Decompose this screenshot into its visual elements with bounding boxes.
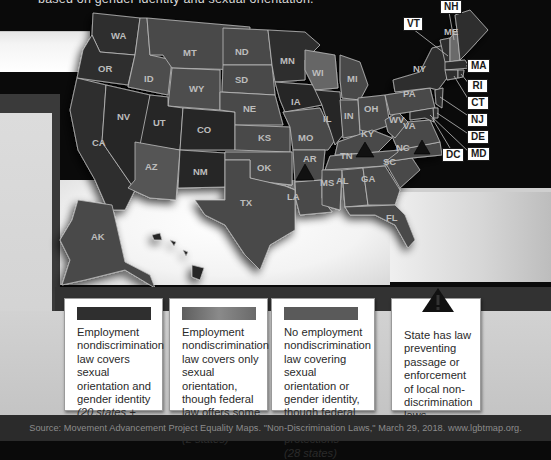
label-wy: WY [189, 83, 205, 94]
state-ct [445, 70, 458, 80]
state-sd [222, 65, 275, 95]
callout-de: DE [467, 130, 489, 144]
callout-ma: MA [467, 59, 490, 73]
label-al: AL [336, 175, 349, 186]
callout-nh: NH [440, 0, 462, 14]
state-fl [345, 205, 415, 248]
label-la: LA [287, 191, 300, 202]
label-or: OR [98, 63, 112, 74]
label-nc: NC [396, 142, 410, 153]
label-wa: WA [111, 30, 126, 41]
source-footer: Source: Movement Advancement Project Equ… [0, 415, 551, 441]
label-ga: GA [361, 173, 375, 184]
legend-text: Employment nondiscrimination law covers … [71, 326, 156, 406]
callout-nj: NJ [467, 113, 488, 127]
callout-md: MD [467, 147, 490, 161]
label-az: AZ [145, 161, 158, 172]
legend-item-none: No employment nondiscrimination law cove… [271, 298, 375, 411]
warning-triangle-icon [420, 287, 456, 313]
label-mt: MT [183, 47, 197, 58]
callout-ri: RI [467, 79, 488, 93]
label-tx: TX [240, 197, 253, 208]
callout-ct: CT [467, 96, 489, 110]
legend-item-both: Employment nondiscrimination law covers … [64, 298, 163, 411]
label-ut: UT [153, 117, 166, 128]
label-mn: MN [280, 55, 295, 66]
legend-text: State has law preventing passage or enfo… [398, 329, 474, 423]
label-mo: MO [298, 132, 313, 143]
label-ak: AK [91, 231, 105, 242]
label-mi: MI [347, 73, 358, 84]
label-ne: NE [243, 103, 256, 114]
state-ak [60, 200, 155, 288]
label-wv: WV [389, 114, 405, 125]
state-hi [152, 233, 204, 280]
label-wi: WI [312, 67, 324, 78]
label-id: ID [144, 73, 154, 84]
label-sd: SD [235, 74, 248, 85]
legend-swatch-sexual-orientation [182, 307, 256, 320]
label-ms: MS [320, 177, 334, 188]
label-in: IN [344, 110, 354, 121]
source-citation: Source: Movement Advancement Project Equ… [29, 423, 522, 433]
label-nv: NV [117, 111, 131, 122]
label-ny: NY [413, 63, 427, 74]
legend-swatch-both [77, 307, 151, 320]
label-ky: KY [361, 128, 375, 139]
legend-item-sexual-orientation-only: Employment nondiscrimination law covers … [169, 298, 268, 411]
state-me [455, 10, 488, 60]
label-pa: PA [403, 88, 416, 99]
legend-swatch-none [284, 307, 358, 320]
label-il: IL [323, 113, 332, 124]
label-ar: AR [303, 153, 317, 164]
label-me: ME [444, 26, 458, 37]
label-sc: SC [383, 156, 396, 167]
callout-dc: DC [442, 148, 464, 162]
callout-vt: VT [403, 17, 423, 31]
label-tn: TN [340, 150, 353, 161]
label-oh: OH [364, 103, 378, 114]
label-ia: IA [291, 96, 301, 107]
label-ks: KS [258, 132, 271, 143]
label-ok: OK [257, 162, 271, 173]
legend-note: (28 states) [278, 447, 368, 460]
label-co: CO [197, 124, 211, 135]
label-ca: CA [92, 137, 106, 148]
label-va: VA [403, 120, 416, 131]
label-nd: ND [235, 46, 249, 57]
label-nm: NM [193, 166, 208, 177]
legend-item-preemption: State has law preventing passage or enfo… [391, 298, 481, 411]
label-fl: FL [386, 212, 398, 223]
